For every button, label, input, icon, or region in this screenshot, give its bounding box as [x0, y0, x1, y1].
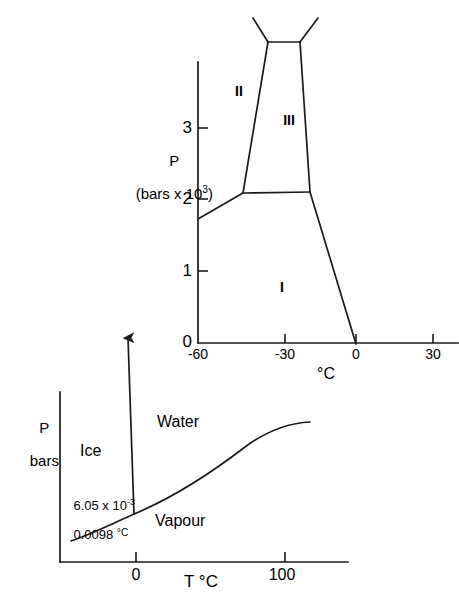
- upper-ytick-label-3: 3: [174, 118, 192, 137]
- upper-xtick-label-minus60: -60: [175, 347, 221, 363]
- upper-xtick-label-30: 30: [410, 347, 456, 363]
- upper-p-label-close: ): [208, 185, 213, 202]
- triple-point-temperature-unit: °C: [117, 527, 128, 538]
- upper-ytick-label-1: 1: [174, 261, 192, 280]
- lower-region-label-ice: Ice: [80, 442, 101, 460]
- boundary-I-III-floor: [243, 192, 310, 193]
- boundary-II-V-upper-left: [253, 18, 268, 42]
- upper-xtick-label-minus30: -30: [262, 347, 308, 363]
- lower-x-axis-label: T °C: [168, 572, 234, 591]
- triple-point-pressure-exponent: -3: [127, 496, 135, 506]
- upper-xtick-label-0: 0: [333, 347, 379, 363]
- upper-x-axis-label: °C: [296, 365, 356, 383]
- phase-diagram-figure: P (bars x 103) 3 2 1 0 -60 -30 0 30 °C I…: [0, 0, 459, 604]
- lower-p-axis-label: P bars: [8, 403, 64, 487]
- upper-region-label-I: I: [265, 280, 299, 296]
- triple-point-annotation: 6.05 x 10-3 0.0098 °C: [59, 484, 135, 557]
- upper-ytick-label-2: 2: [174, 189, 192, 208]
- lower-xtick-label-100: 100: [265, 566, 299, 584]
- triple-point-temperature: 0.0098: [73, 527, 116, 542]
- upper-region-label-III: III: [272, 113, 306, 129]
- triple-point-pressure: 6.05 x 10: [73, 498, 127, 513]
- lower-p-label-line1: P: [39, 419, 49, 436]
- upper-p-label-line1: P: [169, 152, 179, 169]
- lower-p-label-line2: bars: [30, 452, 59, 469]
- upper-p-axis-label: P (bars x 103): [112, 136, 220, 220]
- boundary-II-III-left: [243, 42, 268, 193]
- upper-chart-axes: [198, 62, 458, 343]
- lower-xtick-label-0: 0: [119, 566, 153, 584]
- lower-region-label-water: Water: [157, 413, 199, 431]
- curve-vaporization-water-vapour: [134, 422, 310, 514]
- lower-chart-ticks: [136, 552, 285, 562]
- boundary-I-melting-line: [310, 192, 356, 344]
- boundary-V-upper-right: [300, 18, 318, 42]
- upper-chart-ticks: [198, 128, 433, 343]
- upper-p-label-line2: (bars x 10: [136, 185, 203, 202]
- lower-region-label-vapour: Vapour: [155, 512, 205, 530]
- upper-region-label-II: II: [222, 84, 256, 100]
